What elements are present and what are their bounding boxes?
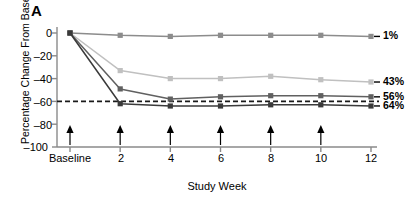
data-point-marker [118,101,123,106]
data-point-marker [318,77,323,82]
data-point-marker [318,33,323,38]
data-point-marker [368,79,373,84]
data-point-marker [268,102,273,107]
data-point-marker [268,33,273,38]
data-point-marker [218,33,223,38]
data-point-marker [218,103,223,108]
data-point-marker [218,76,223,81]
series-43 [67,30,380,84]
data-point-marker [268,93,273,98]
data-point-marker [368,103,373,108]
data-point-marker [168,103,173,108]
data-point-marker [168,97,173,102]
data-point-marker [118,86,123,91]
data-point-marker [368,34,373,39]
data-point-marker [268,74,273,79]
data-point-marker [318,102,323,107]
data-point-marker [168,34,173,39]
data-point-marker [168,76,173,81]
chart-figure: A Percentage Change From Baseline Study … [0,0,407,213]
data-point-marker [118,68,123,73]
series-1 [67,30,380,39]
data-point-marker [67,30,72,35]
data-point-marker [118,33,123,38]
data-point-marker [368,94,373,99]
data-point-marker [218,94,223,99]
dosing-arrows [66,125,324,145]
data-point-marker [318,93,323,98]
plot-canvas [0,0,407,213]
